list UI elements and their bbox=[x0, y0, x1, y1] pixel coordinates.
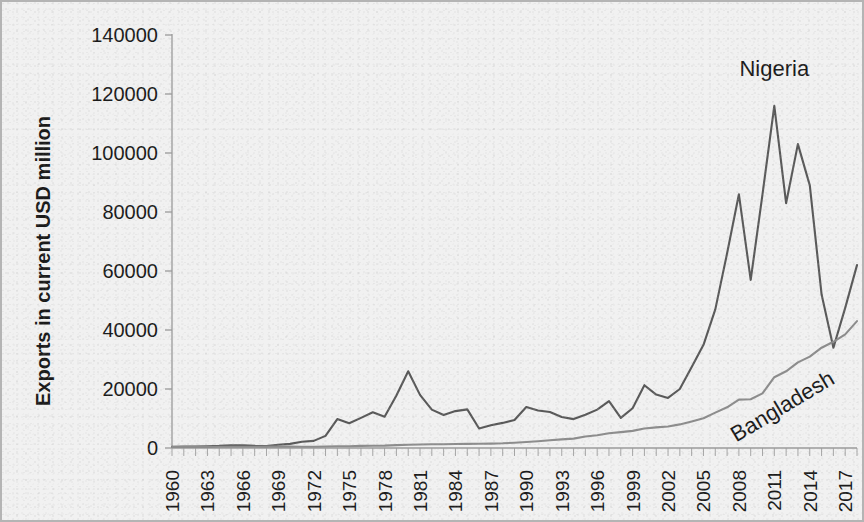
x-tick-label: 1978 bbox=[375, 470, 396, 512]
x-tick-label: 2002 bbox=[658, 470, 679, 512]
x-tick-label: 1996 bbox=[587, 470, 608, 512]
x-axis-tick-marks bbox=[172, 448, 857, 456]
x-tick-label: 1990 bbox=[516, 470, 537, 512]
y-tick-label: 40000 bbox=[102, 319, 158, 341]
x-tick-label: 2005 bbox=[693, 470, 714, 512]
x-tick-label: 1969 bbox=[268, 470, 289, 512]
series-label-bangladesh: Bangladesh bbox=[726, 366, 838, 447]
y-tick-label: 60000 bbox=[102, 260, 158, 282]
y-tick-label: 120000 bbox=[91, 83, 158, 105]
x-tick-label: 1975 bbox=[339, 470, 360, 512]
series-label-nigeria: Nigeria bbox=[739, 56, 809, 81]
x-tick-label: 2008 bbox=[729, 470, 750, 512]
series-line-nigeria bbox=[172, 106, 857, 447]
x-tick-label: 2017 bbox=[835, 470, 856, 512]
series-lines bbox=[172, 106, 857, 447]
x-tick-label: 1981 bbox=[410, 470, 431, 512]
y-axis-title: Exports in current USD million bbox=[32, 116, 54, 406]
x-tick-label: 2014 bbox=[800, 470, 821, 513]
line-chart-plot: Exports in current USD million 020000400… bbox=[2, 2, 864, 522]
x-tick-label: 2011 bbox=[764, 470, 785, 511]
y-tick-label: 80000 bbox=[102, 201, 158, 223]
chart-frame: Exports in current USD million 020000400… bbox=[0, 0, 864, 522]
x-tick-label: 1987 bbox=[481, 470, 502, 512]
y-tick-label: 20000 bbox=[102, 378, 158, 400]
y-tick-label: 0 bbox=[147, 437, 158, 459]
x-tick-label: 1993 bbox=[552, 470, 573, 512]
x-tick-label: 1999 bbox=[623, 470, 644, 512]
x-tick-label: 1966 bbox=[233, 470, 254, 512]
x-tick-label: 1960 bbox=[162, 470, 183, 512]
y-axis-tick-labels: 020000400006000080000100000120000140000 bbox=[91, 24, 158, 459]
y-tick-label: 140000 bbox=[91, 24, 158, 46]
x-tick-label: 1963 bbox=[197, 470, 218, 512]
y-axis-tick-marks bbox=[165, 35, 172, 448]
x-tick-label: 1984 bbox=[445, 470, 466, 513]
x-tick-label: 1972 bbox=[304, 470, 325, 512]
x-axis-tick-labels: 1960196319661969197219751978198119841987… bbox=[162, 470, 856, 513]
series-annotations: NigeriaBangladesh bbox=[726, 56, 838, 447]
y-tick-label: 100000 bbox=[91, 142, 158, 164]
